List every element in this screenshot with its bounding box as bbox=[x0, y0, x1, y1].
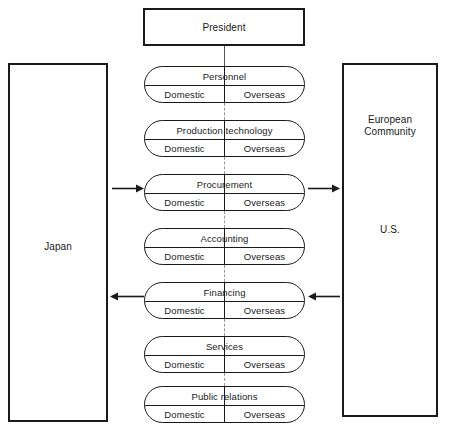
department-overseas-cell[interactable]: Overseas bbox=[225, 302, 304, 318]
president-box: President bbox=[143, 8, 305, 46]
diagram-canvas: Japan European Community U.S. President … bbox=[0, 0, 449, 434]
department-divider-vertical bbox=[224, 283, 225, 319]
department-divider-vertical bbox=[224, 337, 225, 373]
department-divider-vertical bbox=[224, 387, 225, 423]
region-label-japan: Japan bbox=[10, 241, 106, 253]
trunk-connector-dashed bbox=[224, 265, 225, 282]
department-divider-vertical bbox=[224, 175, 225, 211]
department-box[interactable]: ServicesDomesticOverseas bbox=[144, 336, 305, 373]
trunk-connector-dashed bbox=[224, 157, 225, 174]
department-domestic-cell[interactable]: Domestic bbox=[145, 356, 224, 372]
region-label-us: U.S. bbox=[344, 224, 436, 236]
department-box[interactable]: ProcurementDomesticOverseas bbox=[144, 174, 305, 211]
department-divider-vertical bbox=[224, 229, 225, 265]
department-domestic-cell[interactable]: Domestic bbox=[145, 140, 224, 156]
department-box[interactable]: Public relationsDomesticOverseas bbox=[144, 386, 305, 423]
arrow-financing-to-japan bbox=[110, 292, 144, 301]
region-box-overseas: European Community U.S. bbox=[342, 63, 438, 417]
department-overseas-cell[interactable]: Overseas bbox=[225, 86, 304, 102]
department-divider-vertical bbox=[224, 121, 225, 157]
department-domestic-cell[interactable]: Domestic bbox=[145, 406, 224, 422]
department-divider-vertical bbox=[224, 67, 225, 103]
arrow-procurement-to-european-community bbox=[308, 184, 340, 193]
department-box[interactable]: FinancingDomesticOverseas bbox=[144, 282, 305, 319]
trunk-connector-dashed bbox=[224, 373, 225, 386]
department-domestic-cell[interactable]: Domestic bbox=[145, 194, 224, 210]
arrow-us-to-financing bbox=[308, 292, 340, 301]
arrow-japan-to-procurement bbox=[112, 184, 144, 193]
department-box[interactable]: Production technologyDomesticOverseas bbox=[144, 120, 305, 157]
region-label-european-community-line2: Community bbox=[344, 126, 436, 138]
region-label-european-community: European Community bbox=[344, 114, 436, 138]
department-domestic-cell[interactable]: Domestic bbox=[145, 248, 224, 264]
trunk-connector-dashed bbox=[224, 211, 225, 228]
department-domestic-cell[interactable]: Domestic bbox=[145, 302, 224, 318]
president-label: President bbox=[202, 22, 245, 33]
department-domestic-cell[interactable]: Domestic bbox=[145, 86, 224, 102]
department-box[interactable]: PersonnelDomesticOverseas bbox=[144, 66, 305, 103]
trunk-connector-dashed bbox=[224, 103, 225, 120]
department-overseas-cell[interactable]: Overseas bbox=[225, 194, 304, 210]
department-overseas-cell[interactable]: Overseas bbox=[225, 356, 304, 372]
trunk-connector-dashed bbox=[224, 319, 225, 336]
region-label-european-community-line1: European bbox=[344, 114, 436, 126]
department-overseas-cell[interactable]: Overseas bbox=[225, 140, 304, 156]
department-overseas-cell[interactable]: Overseas bbox=[225, 406, 304, 422]
trunk-connector-solid bbox=[224, 46, 225, 66]
department-box[interactable]: AccountingDomesticOverseas bbox=[144, 228, 305, 265]
department-overseas-cell[interactable]: Overseas bbox=[225, 248, 304, 264]
region-box-japan: Japan bbox=[8, 63, 108, 422]
